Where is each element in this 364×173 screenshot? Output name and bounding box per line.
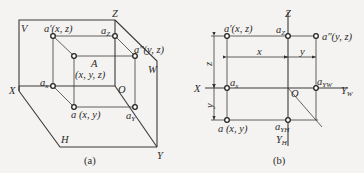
dim-label-y-left: y (204, 103, 215, 109)
label-a-y: aY (126, 110, 136, 123)
point-a (225, 118, 230, 123)
label-a-z: aZ (276, 24, 285, 37)
panel-a-3d-view: V Z a′(x, z) aZ a″(y, z) A (x, y, z) W a… (8, 8, 165, 167)
proj-line (115, 36, 135, 56)
label-o: O (291, 88, 299, 99)
label-x: X (8, 85, 16, 96)
point-a-x (225, 86, 230, 91)
label-yh: YH (276, 134, 288, 147)
point-a-double-prime (314, 34, 319, 39)
point-a-prime (225, 34, 230, 39)
point-A (72, 54, 77, 59)
point-a-y (133, 105, 138, 110)
point-a-x (51, 84, 56, 89)
label-z: Z (112, 8, 118, 19)
caption-a: (a) (84, 155, 96, 167)
label-A-coords: (x, y, z) (75, 69, 106, 81)
dim-label-z-left: z (203, 62, 214, 67)
label-a-x: ax (40, 77, 49, 90)
proj-line (53, 86, 74, 107)
point-a-z (286, 34, 291, 39)
y-axis (115, 86, 157, 147)
label-a-yw: aYW (317, 76, 333, 89)
point-a-z (113, 34, 118, 39)
projection-diagram: V Z a′(x, z) aZ a″(y, z) A (x, y, z) W a… (0, 0, 364, 173)
label-y: Y (157, 150, 164, 161)
dim-label-x: x (256, 46, 262, 57)
label-a-h: a (x, y) (218, 123, 248, 135)
label-a-double-prime: a″(y, z) (134, 44, 165, 56)
point-a-yh (286, 118, 291, 123)
dim-label-y-top: y (299, 46, 305, 57)
label-w: W (148, 64, 158, 75)
label-a-prime: a′(x, z) (44, 23, 73, 35)
label-o: O (118, 84, 126, 95)
point-a-prime (51, 34, 56, 39)
proj-line (53, 36, 74, 56)
label-z: Z (285, 8, 291, 19)
panel-b-orthographic-view: Z a′(x, z) aZ a″(y, z) x y z y ax X O aY… (193, 8, 354, 167)
label-a-h: a (x, y) (71, 109, 101, 121)
label-A: A (90, 58, 98, 69)
label-a-double-prime: a″(y, z) (322, 31, 353, 43)
label-yw: YW (341, 85, 354, 98)
label-a-prime: a′(x, z) (224, 23, 253, 35)
label-h: H (60, 134, 70, 145)
label-x: X (193, 83, 201, 94)
label-v: V (21, 23, 29, 34)
caption-b: (b) (273, 155, 286, 167)
